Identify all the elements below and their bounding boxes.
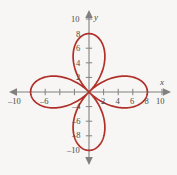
y-tick-label-4: 4 [76, 59, 80, 68]
x-tick-label-2: 2 [101, 97, 105, 106]
y-tick-label-6: 6 [76, 44, 80, 53]
x-tick-label-neg10: –10 [8, 97, 21, 106]
x-tick-label-6: 6 [130, 97, 134, 106]
y-tick-label-8: 8 [76, 30, 80, 39]
x-axis-label: x [160, 78, 164, 87]
y-tick-label-10: 10 [71, 15, 80, 24]
y-tick-label-neg8: –8 [72, 131, 81, 140]
y-tick-label-2: 2 [76, 73, 80, 82]
x-tick-label-10: 10 [156, 97, 165, 106]
arrow-down-icon [85, 157, 93, 165]
y-tick-label-neg6: –6 [72, 117, 81, 126]
polar-rose-plot [0, 0, 177, 175]
x-tick-label-4: 4 [116, 97, 120, 106]
y-tick-label-neg10: –10 [67, 146, 80, 155]
y-axis-label: y [94, 13, 98, 22]
axis-lines [14, 15, 166, 160]
arrow-up-icon [85, 10, 93, 18]
arrow-right-icon [163, 88, 171, 96]
y-tick-label-neg4: –4 [72, 102, 81, 111]
rose-curve-figure: –10 –6 2 4 6 8 10 10 8 6 4 2 –4 –6 –8 –1… [0, 0, 177, 175]
x-tick-label-neg6: –6 [40, 97, 49, 106]
x-tick-label-8: 8 [145, 97, 149, 106]
